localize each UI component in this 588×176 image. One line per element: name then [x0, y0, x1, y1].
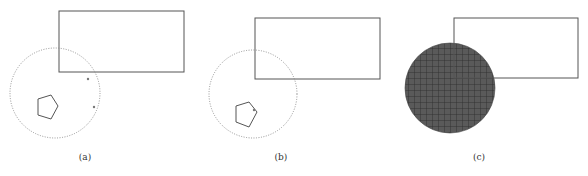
dotted-circle [10, 48, 100, 138]
panel-c [405, 18, 578, 133]
point-marker [253, 109, 255, 111]
point-marker [93, 106, 95, 108]
panel-b [209, 18, 380, 138]
panel-a [10, 11, 184, 138]
point-marker [87, 78, 89, 80]
rectangle [59, 11, 184, 72]
pentagon [38, 95, 58, 119]
rectangle [255, 18, 380, 79]
pentagon [236, 102, 257, 127]
panel-a-caption: (a) [79, 152, 91, 162]
panel-b-caption: (b) [275, 152, 288, 162]
dotted-circle [209, 50, 297, 138]
panel-c-caption: (c) [473, 152, 485, 162]
filled-circle [405, 43, 495, 133]
figure-canvas: (a) (b) (c) [0, 0, 588, 176]
